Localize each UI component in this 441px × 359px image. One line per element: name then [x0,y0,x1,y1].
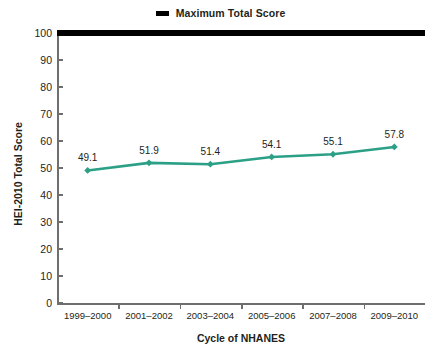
y-axis-tick [57,113,63,115]
maximum-total-score-line [57,30,425,36]
series-data-point [207,161,214,168]
series-data-point [268,154,275,161]
x-axis-tick-label: 2005–2006 [248,310,296,321]
y-axis-title: HEI-2010 Total Score [12,104,24,244]
y-axis-tick [57,59,63,61]
y-axis-tick-label: 100 [4,27,52,39]
y-axis-tick-label: 80 [4,81,52,93]
series-data-point [330,151,337,158]
y-axis-labels: 0102030405060708090100 [0,0,52,359]
y-axis-tick [57,140,63,142]
data-point-value-label: 57.8 [385,129,404,140]
y-axis-tick-label: 0 [4,297,52,309]
y-axis-tick [57,248,63,250]
y-axis-tick [57,275,63,277]
x-axis-tick [180,303,182,309]
series-data-point [84,167,91,174]
data-point-value-label: 49.1 [78,152,97,163]
series-plot [0,0,441,359]
x-axis-tick-label: 1999–2000 [64,310,112,321]
legend-marker-icon [156,11,169,16]
x-axis-title: Cycle of NHANES [57,332,425,344]
series-line-hei-total-score [88,147,395,170]
x-axis-tick [241,303,243,309]
x-axis-tick-label: 2009–2010 [371,310,419,321]
y-axis-tick [57,167,63,169]
series-data-point [391,144,398,151]
y-axis-tick-label: 90 [4,54,52,66]
hei-total-score-line-chart: Maximum Total Score 01020304050607080901… [0,0,441,359]
y-axis-tick [57,86,63,88]
x-axis-tick [302,303,304,309]
y-axis-tick-label: 10 [4,270,52,282]
x-axis-tick [118,303,120,309]
x-axis-tick-label: 2007–2008 [309,310,357,321]
data-point-value-label: 51.4 [201,146,220,157]
y-axis-tick [57,221,63,223]
data-point-value-label: 51.9 [139,145,158,156]
y-axis-tick-label: 20 [4,243,52,255]
data-point-value-label: 55.1 [323,136,342,147]
legend-item-maximum-total-score: Maximum Total Score [156,7,286,19]
data-point-value-label: 54.1 [262,139,281,150]
x-axis-tick [364,303,366,309]
x-axis-tick-label: 2003–2004 [187,310,235,321]
chart-legend: Maximum Total Score [0,4,441,22]
legend-label: Maximum Total Score [176,7,286,19]
y-axis-tick [57,302,63,304]
y-axis-tick [57,194,63,196]
x-axis-tick-label: 2001–2002 [125,310,173,321]
series-data-point [146,159,153,166]
